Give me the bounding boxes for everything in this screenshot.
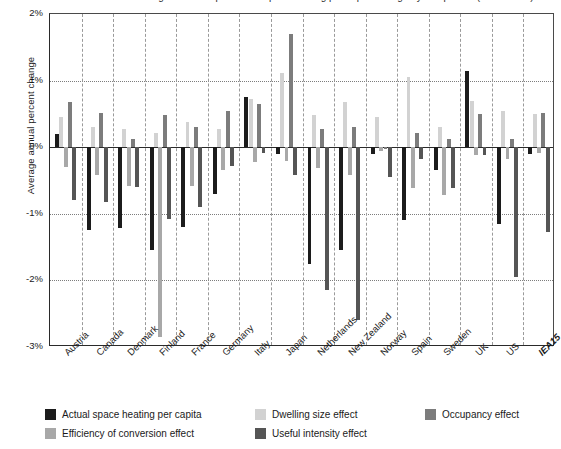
- bar: [122, 129, 126, 148]
- bar-group: [366, 14, 398, 345]
- bar: [379, 147, 383, 150]
- bar: [312, 115, 316, 147]
- bar: [213, 147, 217, 194]
- bar: [474, 147, 478, 155]
- bar-group: [460, 14, 492, 345]
- bar: [118, 147, 122, 228]
- figure-title-sliver: Figure: Decomposition of space heating p…: [150, 0, 550, 3]
- bar-group: [429, 14, 461, 345]
- legend-label: Occupancy effect: [442, 409, 519, 420]
- legend-swatch: [45, 428, 56, 439]
- bar: [501, 111, 505, 148]
- bar: [68, 102, 72, 147]
- bar: [510, 139, 514, 147]
- legend-swatch: [255, 428, 266, 439]
- bar: [190, 147, 194, 186]
- bar: [407, 77, 411, 147]
- bar: [64, 147, 68, 167]
- bar: [434, 147, 438, 170]
- bar: [320, 129, 324, 148]
- bar: [528, 147, 532, 154]
- bar: [348, 147, 352, 175]
- bar-group: [271, 14, 303, 345]
- bar: [352, 127, 356, 147]
- bar: [158, 147, 162, 337]
- bar: [276, 147, 280, 154]
- bar: [262, 147, 266, 152]
- y-tick-label: -2%: [3, 273, 43, 284]
- bar: [280, 73, 284, 148]
- chart-legend: Actual space heating per capitaDwelling …: [45, 409, 561, 447]
- bar: [186, 122, 190, 147]
- bar: [497, 147, 501, 224]
- bar: [384, 147, 388, 148]
- bar: [221, 147, 225, 170]
- bar: [442, 147, 446, 195]
- bar: [339, 147, 343, 250]
- bar: [167, 147, 171, 219]
- y-tick-label: -1%: [3, 207, 43, 218]
- y-axis-label: Average annual percent change: [25, 36, 36, 216]
- bar: [483, 147, 487, 155]
- bar-group: [303, 14, 335, 345]
- bar: [371, 147, 375, 154]
- bar: [87, 147, 91, 230]
- bar: [150, 147, 154, 250]
- bar: [163, 115, 167, 147]
- bar: [99, 113, 103, 148]
- bar-group: [113, 14, 145, 345]
- bar: [356, 147, 360, 320]
- legend-item: Efficiency of conversion effect: [45, 428, 194, 439]
- bar: [230, 147, 234, 166]
- y-tick-label: -3%: [3, 340, 43, 351]
- bar: [411, 147, 415, 188]
- bar: [546, 147, 550, 232]
- bar: [135, 147, 139, 187]
- bar: [308, 147, 312, 264]
- y-tick-label: 0%: [3, 140, 43, 151]
- bar-group: [397, 14, 429, 345]
- bar: [217, 129, 221, 148]
- legend-item: Useful intensity effect: [255, 428, 367, 439]
- legend-label: Actual space heating per capita: [62, 409, 202, 420]
- bar-group: [239, 14, 271, 345]
- bar: [194, 127, 198, 147]
- bar: [325, 147, 329, 290]
- bar: [181, 147, 185, 227]
- bar: [131, 139, 135, 147]
- bar: [253, 147, 257, 162]
- bar: [533, 114, 537, 147]
- bar: [198, 147, 202, 207]
- bar: [127, 147, 131, 186]
- legend-swatch: [45, 409, 56, 420]
- bar: [285, 147, 289, 160]
- bar: [59, 117, 63, 147]
- y-tick-label: 1%: [3, 74, 43, 85]
- bar-layer: [50, 14, 553, 345]
- bar: [316, 147, 320, 168]
- bar: [249, 99, 253, 147]
- bar-group: [523, 14, 555, 345]
- bar: [451, 147, 455, 188]
- plot-area: [49, 13, 554, 346]
- bar: [343, 102, 347, 147]
- legend-label: Useful intensity effect: [272, 428, 367, 439]
- bar: [289, 34, 293, 147]
- legend-item: Occupancy effect: [425, 409, 519, 420]
- bar: [541, 113, 545, 148]
- bar: [537, 147, 541, 152]
- bar-group: [208, 14, 240, 345]
- bar: [293, 147, 297, 175]
- bar: [447, 139, 451, 147]
- bar: [95, 147, 99, 175]
- bar: [514, 147, 518, 277]
- bar-group: [176, 14, 208, 345]
- bar: [104, 147, 108, 202]
- legend-item: Actual space heating per capita: [45, 409, 202, 420]
- legend-item: Dwelling size effect: [255, 409, 357, 420]
- legend-swatch: [255, 409, 266, 420]
- legend-swatch: [425, 409, 436, 420]
- bar: [438, 127, 442, 147]
- bar: [419, 147, 423, 159]
- legend-label: Dwelling size effect: [272, 409, 357, 420]
